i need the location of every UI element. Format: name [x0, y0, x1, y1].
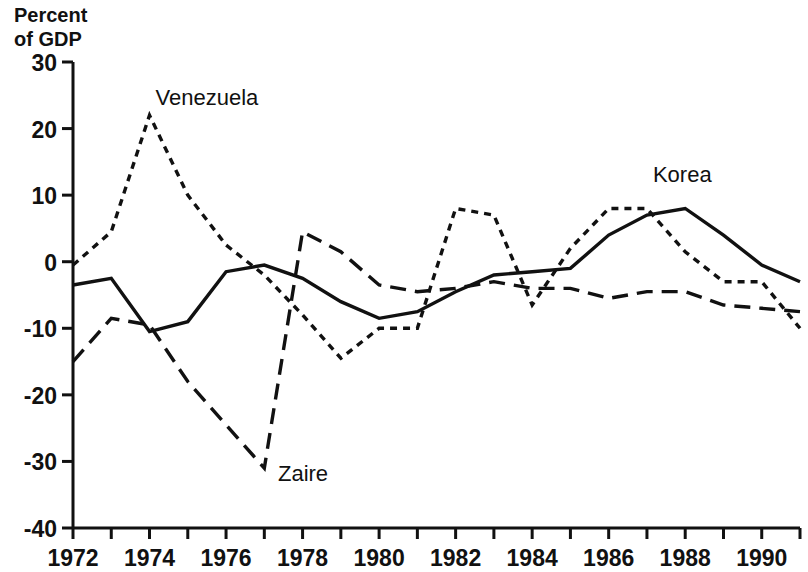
x-tick-label: 1974	[124, 545, 175, 571]
x-tick-label: 1982	[430, 545, 481, 571]
y-tick-label: 20	[31, 117, 57, 143]
y-tick-label: 0	[44, 250, 57, 276]
series-labels: VenezuelaKoreaZaire	[156, 85, 713, 486]
y-axis-ticks: 3020100-10-20-30-40	[24, 50, 73, 542]
series-line-korea	[73, 208, 800, 331]
x-tick-label: 1990	[736, 545, 787, 571]
x-tick-label: 1986	[583, 545, 634, 571]
y-tick-label: -10	[24, 316, 57, 342]
x-tick-label: 1980	[354, 545, 405, 571]
x-tick-label: 1984	[507, 545, 558, 571]
series-label-korea: Korea	[653, 162, 712, 187]
x-tick-label: 1972	[47, 545, 98, 571]
y-tick-label: -30	[24, 449, 57, 475]
x-tick-label: 1976	[200, 545, 251, 571]
x-tick-label: 1988	[660, 545, 711, 571]
y-tick-label: 30	[31, 50, 57, 76]
y-axis-title-line2: of GDP	[14, 28, 82, 50]
y-tick-label: -20	[24, 383, 57, 409]
x-tick-label: 1978	[277, 545, 328, 571]
y-axis-title-line1: Percent	[14, 4, 88, 26]
y-tick-label: 10	[31, 183, 57, 209]
x-axis-ticks: 1972197419761978198019821984198619881990	[47, 528, 800, 571]
line-chart: Percent of GDP 3020100-10-20-30-40 19721…	[0, 0, 808, 572]
series-label-venezuela: Venezuela	[156, 85, 260, 110]
chart-figure: Percent of GDP 3020100-10-20-30-40 19721…	[0, 0, 808, 572]
series-label-zaire: Zaire	[278, 461, 328, 486]
y-tick-label: -40	[24, 516, 57, 542]
